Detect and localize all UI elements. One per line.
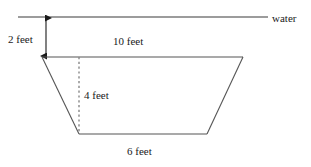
trapezoid-right-edge <box>207 57 243 134</box>
water-label: water <box>272 13 296 24</box>
top-width-label: 10 feet <box>113 36 143 47</box>
geometry-figure: 2 feet 10 feet 4 feet 6 feet water <box>0 0 311 167</box>
bottom-width-label: 6 feet <box>127 146 152 157</box>
figure-drawing <box>0 0 311 167</box>
height-label: 4 feet <box>84 90 109 101</box>
depth-label: 2 feet <box>8 34 33 45</box>
trapezoid-left-edge <box>42 57 79 134</box>
